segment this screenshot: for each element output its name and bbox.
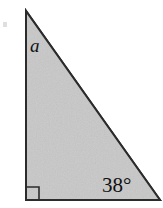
triangle-svg: [0, 0, 163, 208]
angle-label-38-degrees: 38°: [102, 175, 131, 196]
side-label-a: a: [30, 36, 40, 55]
scan-speck-artifact: [3, 22, 7, 27]
triangle-figure: a 38°: [0, 0, 163, 208]
